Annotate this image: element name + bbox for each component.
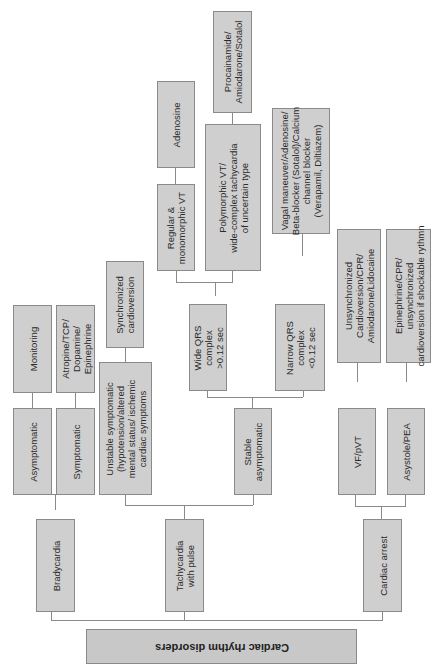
node-label: Wide QRS complex >0.12 sec [192,325,225,370]
node-label: Monitoring [27,327,38,371]
connector [51,620,383,621]
node-unstable: Unstable symptomatic (hypotension/altere… [99,362,152,495]
node-atropine: Atropine/TCP/ Dopamine/ Epinephrine [56,305,95,393]
connector [232,270,233,282]
node-label: Polymorphic VT/ wide-complex tachycardia… [217,143,250,252]
node-label: Asymptomatic [27,422,38,482]
connector [176,270,177,282]
node-label: Adenosine [171,102,182,147]
node-label: Atropine/TCP/ Dopamine/ Epinephrine [59,319,92,379]
node-polymorphic-vt: Polymorphic VT/ wide-complex tachycardia… [205,124,261,271]
connector [302,233,303,256]
node-symptomatic: Symptomatic [56,408,95,495]
node-label: Stable asymptomatic [242,422,264,481]
node-epinephrine-cpr: Epinephrine/CPR/ unsynchronized cardiove… [386,229,431,363]
node-monitoring: Monitoring [13,305,52,393]
node-label: Cardiac arrest [377,536,388,596]
node-label: Symptomatic [70,424,81,479]
connector [355,506,406,507]
connector [355,494,356,506]
node-label: Vagal maneuver/Adenosine/ Beta-blocker (… [279,107,323,235]
node-bradycardia: Bradycardia [36,519,75,612]
node-stable: Stable asymptomatic [234,408,272,495]
node-label: Unsynchronized Cardioversion/CPR/ Amioda… [343,249,376,344]
connector [125,505,253,506]
node-label: VF/pVT [352,435,363,467]
node-label: Epinephrine/CPR/ unsynchronized cardiove… [392,226,425,367]
node-vagal: Vagal maneuver/Adenosine/ Beta-blocker (… [272,108,330,234]
node-label: Asystole/PEA [401,423,412,481]
node-regular-vt: Regular & monomorphic VT [157,184,195,271]
node-cardiac-arrest: Cardiac arrest [363,519,402,612]
node-synchronized: Synchronized cardioversion [106,261,144,348]
connector [357,362,358,382]
node-procainamide: Procainamide/ Amiodarone/Sotalol [213,11,252,113]
node-vf-pvt: VF/pVT [338,408,376,495]
connector [207,397,303,398]
connector [405,494,406,506]
node-asystole-pea: Asystole/PEA [387,408,425,495]
connector [207,390,208,397]
connector [253,494,254,505]
node-label: Tachycardia with pulse [174,540,196,591]
node-label: Bradycardia [50,540,61,591]
node-adenosine: Adenosine [157,81,195,168]
node-tachycardia: Tachycardia with pulse [165,519,204,612]
node-label: Procainamide/ Amiodarone/Sotalol [222,21,244,104]
connector [303,390,304,397]
connector [215,282,216,296]
node-asymptomatic: Asymptomatic [13,408,52,495]
node-label: Narrow QRS complex <0.12 sec [284,321,317,375]
node-wide-qrs: Wide QRS complex >0.12 sec [189,304,227,391]
connector [176,282,233,283]
connector [55,494,56,510]
node-label: Unstable symptomatic (hypotension/altere… [104,379,148,478]
node-unsync-cardioversion: Unsynchronized Cardioversion/CPR/ Amioda… [337,229,381,363]
node-narrow-qrs: Narrow QRS complex <0.12 sec [275,304,325,391]
node-label: Synchronized cardioversion [114,276,136,334]
node-label: Regular & monomorphic VT [165,191,187,263]
connector [125,494,126,505]
root-node: Cardiac rhythm disorders [86,629,357,664]
node-label: Cardiac rhythm disorders [155,641,289,652]
